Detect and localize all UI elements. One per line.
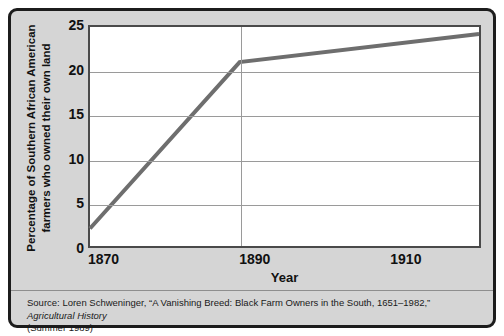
x-axis-tick-labels: 187018901910	[88, 251, 488, 271]
source-divider	[11, 290, 493, 291]
source-line-1-prefix: Source: Loren Schweninger, “A Vanishing …	[27, 297, 430, 308]
chart-figure: Percentage of Southern African American …	[8, 8, 496, 328]
gridline-horizontal	[90, 161, 479, 162]
source-line-2: (Summer 1989)	[27, 322, 479, 335]
gridline-vertical	[241, 27, 242, 246]
gridline-horizontal	[90, 205, 479, 206]
source-journal-name: Agricultural History	[27, 310, 107, 321]
gridline-horizontal	[90, 116, 479, 117]
x-axis-tick-label: 1890	[239, 251, 270, 267]
series-line-chart	[90, 27, 479, 246]
y-axis-tick-label: 0	[76, 240, 84, 256]
x-axis-title: Year	[88, 270, 481, 285]
y-axis-title-line-1: Percentage of Southern African American	[24, 14, 39, 262]
y-axis-tick-label: 10	[68, 151, 84, 167]
plot-wrapper	[88, 25, 481, 248]
source-note: Source: Loren Schweninger, “A Vanishing …	[27, 297, 479, 335]
y-axis-tick-label: 15	[68, 106, 84, 122]
y-axis-tick-label: 25	[68, 17, 84, 33]
y-axis-title-line-2: farmers who owned their own land	[39, 14, 54, 262]
y-axis-tick-label: 5	[76, 195, 84, 211]
y-axis-tick-labels: 0510152025	[56, 25, 84, 248]
x-axis-tick-label: 1910	[390, 251, 421, 267]
data-series-line	[90, 34, 479, 228]
y-axis-tick-label: 20	[68, 62, 84, 78]
y-axis-title: Percentage of Southern African American …	[24, 14, 54, 262]
gridline-horizontal	[90, 72, 479, 73]
x-axis-tick-label: 1870	[88, 251, 119, 267]
plot-area	[88, 25, 481, 248]
